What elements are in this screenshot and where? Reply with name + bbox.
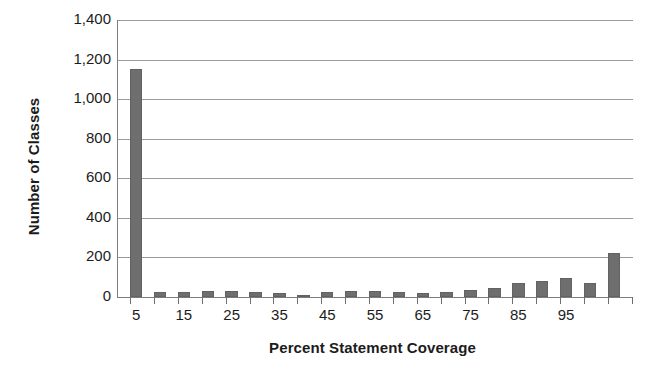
bar xyxy=(536,281,548,297)
x-axis-tick xyxy=(345,297,346,304)
bar xyxy=(154,292,166,297)
bar xyxy=(273,293,285,297)
x-axis-tick xyxy=(632,297,633,304)
bar xyxy=(608,253,620,297)
y-axis-tick-label: 400 xyxy=(39,208,111,225)
y-axis-tick-label: 200 xyxy=(39,247,111,264)
x-axis-tick-label: 55 xyxy=(367,306,384,323)
x-axis-tick xyxy=(321,297,322,304)
x-axis-tick-label: 75 xyxy=(462,306,479,323)
bar xyxy=(345,291,357,297)
x-axis-tick xyxy=(226,297,227,304)
bar xyxy=(584,283,596,297)
x-axis-tick xyxy=(178,297,179,304)
x-axis-tick xyxy=(512,297,513,304)
bar xyxy=(512,283,524,297)
y-axis-tick-label: 1,400 xyxy=(39,10,111,27)
x-axis-tick xyxy=(441,297,442,304)
bar xyxy=(440,292,452,297)
x-axis-tick xyxy=(560,297,561,304)
x-axis-tick xyxy=(154,297,155,304)
histogram-chart: Number of Classes 02004006008001,0001,20… xyxy=(0,0,645,373)
x-axis-tick-label: 25 xyxy=(223,306,240,323)
x-axis-tick xyxy=(417,297,418,304)
y-axis-tick-labels: 02004006008001,0001,2001,400 xyxy=(33,0,111,373)
bar xyxy=(225,291,237,297)
x-axis-tick xyxy=(536,297,537,304)
x-axis-line xyxy=(117,297,633,298)
y-axis-tick-label: 0 xyxy=(39,287,111,304)
x-axis-tick-label: 95 xyxy=(558,306,575,323)
bar-series xyxy=(117,20,633,297)
bar xyxy=(464,290,476,297)
y-axis-tick-label: 1,200 xyxy=(39,50,111,67)
x-axis-tick-label: 15 xyxy=(176,306,193,323)
x-axis-tick-label: 85 xyxy=(510,306,527,323)
bar xyxy=(130,69,142,297)
bar xyxy=(297,295,309,297)
bar xyxy=(393,292,405,297)
x-axis-tick-label: 35 xyxy=(271,306,288,323)
x-axis-tick xyxy=(202,297,203,304)
x-axis-tick-label: 5 xyxy=(132,306,140,323)
x-axis-tick xyxy=(608,297,609,304)
x-axis-tick xyxy=(488,297,489,304)
y-axis-tick-label: 800 xyxy=(39,129,111,146)
y-axis-tick-label: 600 xyxy=(39,168,111,185)
x-axis-tick xyxy=(273,297,274,304)
bar xyxy=(417,293,429,297)
bar xyxy=(560,278,572,297)
x-axis-tick xyxy=(465,297,466,304)
x-axis-tick xyxy=(369,297,370,304)
x-axis-title: Percent Statement Coverage xyxy=(110,339,635,356)
bar xyxy=(321,292,333,297)
x-axis-tick-label: 45 xyxy=(319,306,336,323)
y-axis-tick-label: 1,000 xyxy=(39,89,111,106)
x-axis-tick-label: 65 xyxy=(414,306,431,323)
bar xyxy=(249,292,261,297)
bar xyxy=(202,291,214,297)
bar xyxy=(178,292,190,297)
x-axis-tick xyxy=(250,297,251,304)
bar xyxy=(369,291,381,297)
x-axis-tick xyxy=(393,297,394,304)
x-axis-tick xyxy=(130,297,131,304)
x-axis-tick xyxy=(584,297,585,304)
bar xyxy=(488,288,500,297)
x-axis-tick xyxy=(297,297,298,304)
